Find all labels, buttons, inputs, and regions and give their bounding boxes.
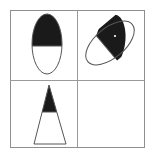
- top-right-white-speck: [114, 35, 116, 37]
- shape-grid-canvas: [0, 0, 153, 163]
- shape-grid-figure: [0, 0, 153, 163]
- figure-background: [0, 0, 153, 163]
